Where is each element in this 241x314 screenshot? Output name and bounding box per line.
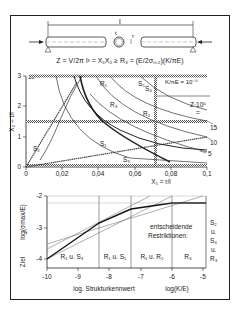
s1-line <box>26 137 207 167</box>
z-contour-label: 10 <box>210 139 218 146</box>
annotation-line2: Restriktionen: <box>148 232 188 239</box>
force-arrow-left-icon <box>29 40 44 44</box>
curve-label-s4: S₄ <box>145 85 152 92</box>
design-space-chart: 0 0,02 0,04 0,06 0,08 0,1 0 1 2 3 10⁻³ X… <box>8 72 218 185</box>
x-tick: -7 <box>138 273 144 280</box>
constraint-curve <box>40 76 82 160</box>
y-tick: -4 <box>36 255 42 262</box>
top-limit-hatch <box>30 75 207 78</box>
pin-support-icon <box>45 47 51 52</box>
x-tick: -6 <box>169 273 175 280</box>
k-ratio-label: K/πE = 10⁻⁶ <box>165 79 198 85</box>
x-tick: 0,06 <box>129 170 142 177</box>
curve-label-s2: S₂ <box>33 145 40 152</box>
y-axis-label: X₂ = t/l <box>8 112 15 132</box>
y-tick: -2 <box>36 192 42 199</box>
region-label: R₁ u. R₂ <box>140 253 164 260</box>
x-axis-label: log. Strukturkennwert <box>73 285 135 293</box>
series-optimum <box>47 203 206 259</box>
x-tick: 0,08 <box>165 170 178 177</box>
x-tick: -9 <box>75 273 81 280</box>
curve-label-r3: R₃ <box>110 101 118 108</box>
x-axis-label: X₁ = r/l <box>151 178 171 185</box>
formula: Z = V/2π l³ = X₁X₂ ≥ R₃ = (E/2σ₀,₂)(K/πE… <box>56 57 183 65</box>
curve-label-r1: R₁ <box>100 80 108 87</box>
roller-support-icon <box>190 47 196 52</box>
y-tick: 0 <box>17 163 21 170</box>
x-axis-label-right: log(K/E) <box>165 285 188 293</box>
svg-text:u.: u. <box>211 228 217 235</box>
radius-label: r <box>132 33 134 39</box>
region-label: R₁ u. S₁ <box>104 253 127 260</box>
x-tick: 0 <box>24 170 28 177</box>
target-label: Ziel <box>19 256 26 267</box>
length-label: l <box>119 17 121 26</box>
k-ratio-box: K/πE = 10⁻⁶ <box>157 79 210 96</box>
x-tick: -8 <box>106 273 112 280</box>
z-contour-label: 15 <box>210 124 218 131</box>
x-tick: -10 <box>42 273 52 280</box>
s3-limit-hatch <box>26 164 207 167</box>
structural-index-chart: -10 -9 -8 -7 -6 -5 -2 -3 -4 log. Struktu… <box>19 192 218 293</box>
force-arrow-right-icon <box>197 40 212 44</box>
curve-label-s3: S₃ <box>123 156 130 163</box>
z-eq: = <box>196 109 200 116</box>
curve-label-s1: S₁ <box>100 140 107 147</box>
y-tick: 2 <box>17 102 21 109</box>
y-tick: -3 <box>36 224 42 231</box>
r3-curve <box>74 76 207 150</box>
diagram-canvas: l t r Z = V/2π l³ = X₁X₂ ≥ R₃ = (E/2σ₀,₂… <box>0 0 241 314</box>
x-tick: 0,02 <box>56 170 69 177</box>
svg-text:R₃: R₃ <box>210 255 218 262</box>
annotation-line1: entscheidende <box>150 223 193 230</box>
region-label: R₁ u. S₃ <box>61 253 84 260</box>
x-tick: 0,04 <box>92 170 105 177</box>
s2-line <box>26 82 77 167</box>
y-axis-label: log(σmax/E) <box>19 204 27 239</box>
y-tick: 3 <box>17 72 21 79</box>
svg-text:u.: u. <box>211 246 217 253</box>
region-label: R₃ <box>184 253 192 260</box>
curve-label-r2: R₂ <box>143 110 151 117</box>
beam-sketch: l t r <box>29 17 212 52</box>
x-tick: -5 <box>200 273 206 280</box>
z-contour-label: 5 <box>208 150 212 157</box>
z-axis-label: Z·10⁵ <box>190 101 206 108</box>
x-tick: 0,1 <box>202 170 211 177</box>
svg-text:S₂: S₂ <box>210 219 217 226</box>
y-tick: 1 <box>17 133 21 140</box>
right-region-stack: S₂ u. S₄ u. R₃ <box>210 219 218 262</box>
thickness-label: t <box>115 30 117 36</box>
svg-text:S₄: S₄ <box>210 237 217 244</box>
